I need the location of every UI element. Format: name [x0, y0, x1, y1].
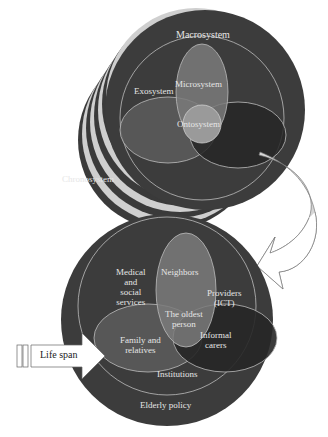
- macrosystem-label: Macrosystem: [176, 30, 230, 40]
- providers-label: Providers (ICT): [207, 288, 242, 308]
- ontosystem-label: Ontosystem: [177, 119, 220, 129]
- institutions-label: Institutions: [157, 369, 198, 379]
- informal-carers-label: Informal carers: [200, 330, 232, 350]
- oldest-person-label: The oldest person: [165, 309, 203, 329]
- providers-line-2: (ICT): [207, 298, 242, 308]
- informal-line-1: Informal: [200, 330, 232, 340]
- microsystem-label: Microsystem: [175, 79, 222, 89]
- providers-line-1: Providers: [207, 288, 242, 298]
- neighbors-label: Neighbors: [161, 267, 199, 277]
- medical-line-3: social: [116, 287, 146, 297]
- oldest-line-2: person: [165, 319, 203, 329]
- medical-line-1: Medical: [116, 267, 146, 277]
- medical-services-label: Medical and social services: [116, 267, 146, 307]
- chronosystem-label: Chronosystem: [62, 174, 114, 184]
- family-relatives-label: Family and relatives: [120, 335, 161, 355]
- medical-line-2: and: [116, 277, 146, 287]
- life-span-label: Life span: [40, 350, 78, 360]
- family-line-1: Family and: [120, 335, 161, 345]
- medical-line-4: services: [116, 297, 146, 307]
- elderly-policy-label: Elderly policy: [140, 400, 191, 410]
- oldest-line-1: The oldest: [165, 309, 203, 319]
- exosystem-label: Exosystem: [134, 86, 174, 96]
- informal-line-2: carers: [200, 340, 232, 350]
- top-disc: [105, 10, 305, 210]
- family-line-2: relatives: [120, 345, 161, 355]
